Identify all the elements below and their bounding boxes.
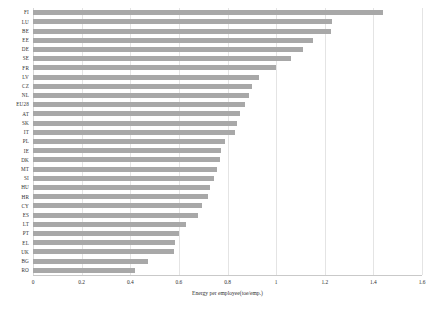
x-tick-label: 1.2 xyxy=(321,278,328,286)
bar-pt xyxy=(33,231,179,236)
bar-row xyxy=(33,91,422,100)
bar-pl xyxy=(33,139,225,144)
category-label-pl: PL xyxy=(0,138,29,144)
bar-row xyxy=(33,45,422,54)
category-label-de: DE xyxy=(0,46,29,52)
bar-el xyxy=(33,240,175,245)
bar-fi xyxy=(33,10,383,15)
category-label-lu: LU xyxy=(0,19,29,25)
category-label-hu: HU xyxy=(0,184,29,190)
category-label-dk: DK xyxy=(0,157,29,163)
category-label-fi: FI xyxy=(0,9,29,15)
bar-row xyxy=(33,201,422,210)
bar-row xyxy=(33,183,422,192)
category-label-es: ES xyxy=(0,212,29,218)
category-label-uk: UK xyxy=(0,249,29,255)
bar-se xyxy=(33,56,291,61)
bar-row xyxy=(33,118,422,127)
bar-ro xyxy=(33,268,135,273)
category-label-mt: MT xyxy=(0,166,29,172)
category-label-it: IT xyxy=(0,129,29,135)
bar-row xyxy=(33,247,422,256)
bar-row xyxy=(33,238,422,247)
plot-area xyxy=(33,8,422,275)
bar-it xyxy=(33,130,235,135)
bar-row xyxy=(33,137,422,146)
bar-row xyxy=(33,229,422,238)
bar-be xyxy=(33,29,331,34)
bar-hu xyxy=(33,185,210,190)
category-label-hr: HR xyxy=(0,194,29,200)
bar-uk xyxy=(33,249,174,254)
category-label-ee: EE xyxy=(0,37,29,43)
category-label-nl: NL xyxy=(0,92,29,98)
bar-row xyxy=(33,100,422,109)
x-axis-line xyxy=(33,275,422,276)
bar-ie xyxy=(33,148,221,153)
category-label-at: AT xyxy=(0,111,29,117)
bar-de xyxy=(33,47,303,52)
x-tick-label: 0.6 xyxy=(176,278,183,286)
bar-row xyxy=(33,266,422,275)
category-label-sk: SK xyxy=(0,120,29,126)
x-tick-label: 0 xyxy=(32,278,35,286)
bar-row xyxy=(33,36,422,45)
x-tick-label: 0.8 xyxy=(224,278,231,286)
gridline xyxy=(422,8,423,275)
bar-row xyxy=(33,220,422,229)
bar-row xyxy=(33,54,422,63)
bar-es xyxy=(33,213,198,218)
bar-mt xyxy=(33,167,217,172)
category-label-lt: LT xyxy=(0,221,29,227)
bar-cy xyxy=(33,203,202,208)
bar-row xyxy=(33,192,422,201)
bar-row xyxy=(33,17,422,26)
bar-row xyxy=(33,26,422,35)
x-axis-title: Energy per employee(toe/emp.) xyxy=(33,289,422,297)
energy-per-employee-bar-chart: FILUBEEEDESEFRLVCZNLEU28ATSKITPLIEDKMTSI… xyxy=(0,0,427,309)
category-label-cz: CZ xyxy=(0,83,29,89)
bar-lv xyxy=(33,75,259,80)
bar-bg xyxy=(33,259,148,264)
bar-hr xyxy=(33,194,208,199)
bar-lu xyxy=(33,19,332,24)
category-label-fr: FR xyxy=(0,65,29,71)
bar-at xyxy=(33,111,240,116)
bar-row xyxy=(33,257,422,266)
bar-row xyxy=(33,128,422,137)
category-label-cy: CY xyxy=(0,203,29,209)
bar-series xyxy=(33,8,422,275)
category-label-el: EL xyxy=(0,240,29,246)
bar-sk xyxy=(33,121,237,126)
x-tick-label: 1.6 xyxy=(419,278,426,286)
category-label-se: SE xyxy=(0,55,29,61)
category-label-si: SI xyxy=(0,175,29,181)
bar-cz xyxy=(33,84,252,89)
bar-row xyxy=(33,174,422,183)
bar-row xyxy=(33,8,422,17)
bar-ee xyxy=(33,38,313,43)
bar-row xyxy=(33,165,422,174)
bar-row xyxy=(33,155,422,164)
bar-row xyxy=(33,82,422,91)
bar-dk xyxy=(33,157,220,162)
bar-row xyxy=(33,211,422,220)
bar-row xyxy=(33,146,422,155)
category-label-ro: RO xyxy=(0,267,29,273)
bar-row xyxy=(33,63,422,72)
category-label-be: BE xyxy=(0,28,29,34)
category-axis-labels: FILUBEEEDESEFRLVCZNLEU28ATSKITPLIEDKMTSI… xyxy=(0,8,31,275)
bar-nl xyxy=(33,93,249,98)
bar-si xyxy=(33,176,214,181)
x-tick-label: 1 xyxy=(275,278,278,286)
bar-row xyxy=(33,72,422,81)
bar-fr xyxy=(33,65,276,70)
category-label-lv: LV xyxy=(0,74,29,80)
x-tick-label: 1.4 xyxy=(370,278,377,286)
x-tick-label: 0.4 xyxy=(127,278,134,286)
category-label-ie: IE xyxy=(0,148,29,154)
category-label-pt: PT xyxy=(0,230,29,236)
bar-lt xyxy=(33,222,186,227)
bar-eu28 xyxy=(33,102,245,107)
bar-row xyxy=(33,109,422,118)
